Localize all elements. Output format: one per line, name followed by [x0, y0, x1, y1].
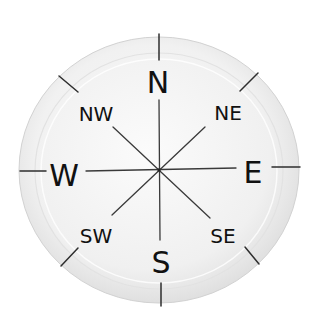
label-southeast: SE	[210, 224, 235, 248]
label-east: E	[244, 155, 263, 190]
label-west: W	[49, 158, 79, 193]
compass-plate-scene: N E S W NW NE SW SE	[0, 0, 314, 321]
center-point	[158, 169, 161, 172]
label-southwest: SW	[80, 224, 113, 248]
compass-plate-illustration: N E S W NW NE SW SE	[0, 0, 314, 321]
label-northwest: NW	[79, 102, 114, 126]
label-south: S	[151, 245, 170, 280]
label-northeast: NE	[214, 101, 242, 125]
label-north: N	[147, 65, 169, 100]
